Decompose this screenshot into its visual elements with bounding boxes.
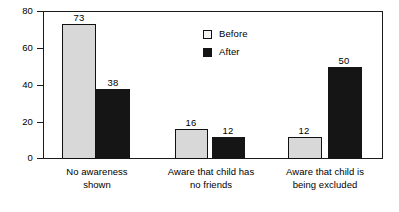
y-axis-label-80: 80 [3,6,33,16]
y-axis-tick-20 [37,122,43,123]
category-line-1: No awareness [36,166,158,179]
y-axis-label-60: 60 [3,43,33,53]
legend-item-before: Before [203,25,289,43]
y-axis-tick-0 [37,158,43,159]
legend-swatch-after-icon [203,48,212,57]
y-axis-tick-60 [37,48,43,49]
y-axis-label-20: 20 [3,117,33,127]
legend-label-after: After [219,47,240,57]
category-line-2: shown [36,179,158,192]
y-axis-tick-40 [37,85,43,86]
category-line-2: no friends [150,179,272,192]
y-axis-label-0: 0 [3,153,33,163]
category-line-1: Aware that child has [150,166,272,179]
x-axis-category-aware-no-friends: Aware that child has no friends [150,166,272,191]
legend-swatch-before-icon [203,30,212,39]
x-axis-category-aware-being-excluded: Aware that child is being excluded [264,166,386,191]
y-axis-tick-80 [37,11,43,12]
category-line-1: Aware that child is [264,166,386,179]
y-axis-label-40: 40 [3,80,33,90]
legend-item-after: After [203,43,289,61]
category-line-2: being excluded [264,179,386,192]
bar-chart: 80 60 40 20 0 73 38 16 12 12 50 No aware… [0,0,399,212]
chart-legend: Before After [203,25,289,61]
legend-label-before: Before [219,29,248,39]
x-axis-category-no-awareness-shown: No awareness shown [36,166,158,191]
